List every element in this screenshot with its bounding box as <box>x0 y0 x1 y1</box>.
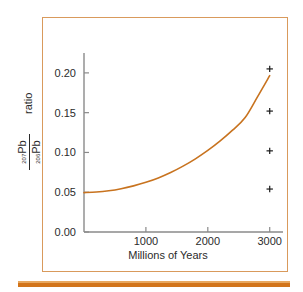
y-tick-label: 0.05 <box>55 186 76 198</box>
y-axis-title-suffix: ratio <box>22 93 34 114</box>
y-tick-label: 0.00 <box>55 226 76 238</box>
sample-marker-plus <box>267 186 273 192</box>
chart-plot-area: 0.000.050.100.150.20 100020003000 Millio… <box>0 0 303 292</box>
x-tick-label: 2000 <box>196 235 220 247</box>
x-tick-label: 1000 <box>134 235 158 247</box>
numerator-base: Pb <box>16 140 28 153</box>
x-axis-ticks: 100020003000 <box>134 227 282 247</box>
y-axis-title-numerator: 207Pb <box>16 140 28 163</box>
y-tick-label: 0.10 <box>55 146 76 158</box>
sample-marker-plus <box>267 148 273 154</box>
growth-curve-line <box>84 76 270 193</box>
y-axis-title: ratio 207Pb 206Pb <box>16 93 42 170</box>
y-axis-title-denominator: 206Pb <box>30 140 42 163</box>
denominator-base: Pb <box>30 140 42 153</box>
x-tick-label: 3000 <box>257 235 281 247</box>
y-axis-title-fraction: 207Pb 206Pb <box>16 134 42 170</box>
sample-marker-plus <box>267 108 273 114</box>
sample-marker-group <box>267 66 273 193</box>
chart-axes <box>84 53 283 232</box>
sample-marker-plus <box>267 66 273 72</box>
y-tick-label: 0.20 <box>55 67 76 79</box>
x-axis-title: Millions of Years <box>128 249 208 261</box>
y-tick-label: 0.15 <box>55 107 76 119</box>
